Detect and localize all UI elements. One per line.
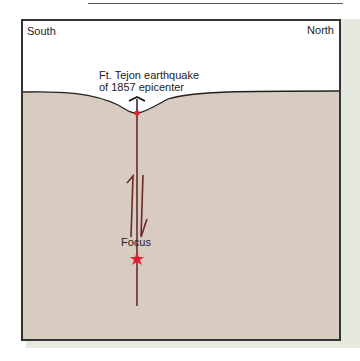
focus-label: Focus	[121, 236, 151, 248]
south-label: South	[27, 25, 56, 37]
epicenter-label-line2: of 1857 epicenter	[99, 81, 184, 93]
cross-section-diagram: South North Ft. Tejon earthquake of 1857…	[21, 19, 341, 341]
header-rule	[88, 3, 343, 4]
ground-block	[23, 91, 341, 341]
page-bottom-margin	[0, 348, 360, 361]
north-label: North	[307, 24, 334, 36]
epicenter-label-line1: Ft. Tejon earthquake	[99, 69, 199, 81]
